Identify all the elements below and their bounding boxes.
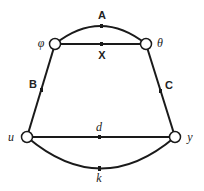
label-X: X — [98, 49, 106, 61]
label-u: u — [8, 130, 14, 144]
edge-k — [27, 137, 175, 169]
node-phi — [50, 39, 61, 50]
node-theta — [141, 39, 152, 50]
tick-d — [98, 135, 101, 139]
tick-C — [159, 89, 162, 93]
node-u — [22, 132, 33, 143]
label-phi: φ — [38, 36, 45, 50]
label-theta: θ — [157, 36, 163, 50]
label-k: k — [96, 171, 102, 185]
label-y: y — [186, 130, 193, 144]
edge-A — [55, 26, 146, 44]
label-C: C — [165, 79, 173, 91]
label-A: A — [98, 9, 106, 21]
tick-A — [100, 24, 103, 28]
label-B: B — [29, 78, 37, 90]
node-y — [170, 132, 181, 143]
tick-B — [40, 88, 43, 92]
tick-X — [100, 42, 103, 46]
label-d: d — [96, 120, 103, 134]
graph-diagram: A X B C d k φ θ u y — [0, 0, 204, 191]
